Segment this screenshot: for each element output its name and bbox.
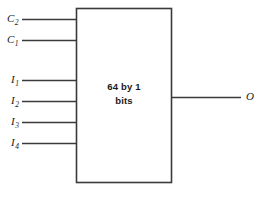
input-label-c2-subscript: 2 (14, 18, 18, 27)
input-label-c1: C1 (7, 34, 19, 45)
input-label-c1-subscript: 1 (14, 39, 18, 48)
input-label-c2: C2 (7, 13, 19, 24)
diagram-canvas: C2 C1 I1 I2 I3 I4 O 64 by 1 bits (0, 0, 262, 206)
input-label-i4: I4 (11, 137, 19, 148)
output-label-o-base: O (246, 90, 254, 102)
output-label-o: O (246, 91, 254, 102)
memory-block-label-line1: 64 by 1 (76, 80, 172, 94)
input-label-i4-subscript: 4 (15, 142, 19, 151)
memory-block-label: 64 by 1 bits (76, 80, 172, 108)
input-label-i1: I1 (11, 74, 19, 85)
input-label-i1-subscript: 1 (15, 79, 19, 88)
input-label-i3: I3 (11, 116, 19, 127)
memory-block-label-line2: bits (76, 94, 172, 108)
input-label-i2-subscript: 2 (15, 100, 19, 109)
input-label-i3-subscript: 3 (15, 121, 19, 130)
input-label-i2: I2 (11, 95, 19, 106)
